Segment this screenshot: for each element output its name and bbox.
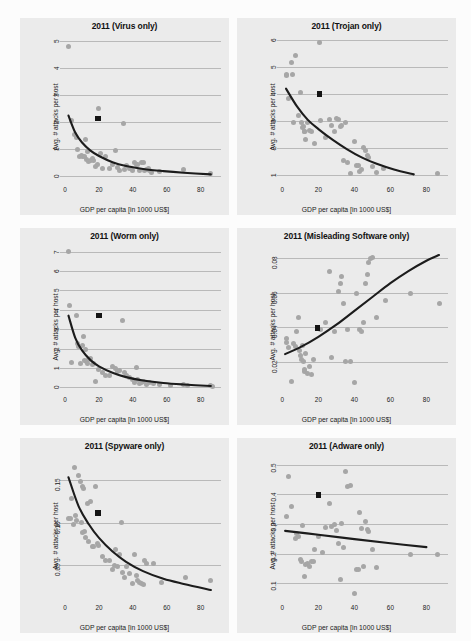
scatter-point [124,564,129,569]
scatter-point [338,281,343,286]
scatter-point [76,473,81,478]
scatter-point [381,166,386,171]
x-tick-label: 40 [129,396,136,403]
gridline [277,554,448,555]
scatter-point [327,269,332,274]
scatter-point [363,519,368,524]
scatter-point [74,313,79,318]
y-tick-label: 2 [53,344,57,351]
scatter-point [307,364,312,369]
gridline [277,67,448,68]
x-tick-label: 0 [281,604,285,611]
panel-title: 2011 (Adware only) [237,441,456,451]
scatter-point [327,501,332,506]
scatter-point [352,139,357,144]
scatter-point [374,565,379,570]
x-tick-label: 60 [387,396,394,403]
scatter-point [85,361,90,366]
y-tick-label: 0.05 [45,560,57,567]
scatter-point [72,465,77,470]
scatter-point [95,162,100,167]
scatter-point [309,129,314,134]
scatter-point [345,327,350,332]
scatter-point [312,141,317,146]
scatter-point [336,541,341,546]
y-tick-label: 0.02 [262,357,274,364]
gridline [60,176,221,177]
scatter-point [121,121,126,126]
gridline [60,565,221,566]
scatter-point [359,526,364,531]
x-tick-label: 0 [63,186,67,193]
gridline [60,310,221,311]
scatter-point [117,552,122,557]
panel-2011-worm-only: 2011 (Worm only)Avg. # attacks per hostG… [20,228,229,425]
scatter-point [286,474,291,479]
x-tick-label: 60 [387,604,394,611]
scatter-point [296,315,301,320]
plot-area: 0.050.100.15020406080 [60,456,221,601]
scatter-point [120,318,125,323]
scatter-point [323,135,328,140]
scatter-point [301,359,306,364]
scatter-point [370,547,375,552]
scatter-point [339,521,344,526]
x-tick-label: 60 [163,186,170,193]
scatter-point [435,552,440,557]
y-tick-label: 3 [53,90,57,97]
scatter-point [332,129,337,134]
highlight-square-marker [315,325,321,331]
scatter-point [107,373,112,378]
gridline [277,327,448,328]
gridline [277,258,448,259]
y-tick-label: 0.1 [265,578,274,585]
x-axis-label: GDP per capita [in 1000 US$] [20,206,229,213]
scatter-point [323,525,328,530]
scatter-point [86,539,91,544]
fit-curve [60,246,221,393]
x-tick-label: 0 [281,186,285,193]
y-tick-label: 0.10 [45,518,57,525]
scatter-point [300,523,305,528]
scatter-point [334,528,339,533]
scatter-point [69,496,74,501]
scatter-point [127,571,132,576]
gridline [277,293,448,294]
scatter-point [149,170,154,175]
panel-2011-trojan-only: 2011 (Trojan only)Avg. # attacks per hos… [237,18,456,215]
scatter-point [338,577,343,582]
scatter-point [93,484,98,489]
scatter-point [341,301,346,306]
scatter-point [302,574,307,579]
panel-2011-spyware-only: 2011 (Spyware only)Avg. # attacks per ho… [20,438,229,633]
scatter-point [366,155,371,160]
scatter-point [286,345,291,350]
x-tick-label: 60 [387,186,394,193]
scatter-point [119,520,124,525]
gridline [60,387,221,388]
gridline [277,94,448,95]
scatter-point [366,529,371,534]
scatter-point [341,545,346,550]
scatter-point [66,249,71,254]
scatter-point [316,534,321,539]
x-axis-label: GDP per capita [in 1000 US$] [20,624,229,631]
x-tick-label: 20 [95,186,102,193]
panel-2011-virus-only: 2011 (Virus only)Avg. # attacks per host… [20,18,229,215]
scatter-point [115,564,120,569]
scatter-point [374,170,379,175]
x-tick-label: 80 [423,186,430,193]
scatter-point [291,120,296,125]
x-tick-label: 80 [197,396,204,403]
gridline [60,122,221,123]
scatter-point [100,166,105,171]
scatter-point [359,329,364,334]
x-axis-label: GDP per capita [in 1000 US$] [237,624,456,631]
scatter-point [66,44,71,49]
y-tick-label: 6 [53,266,57,273]
y-tick-label: 0.06 [262,288,274,295]
scatter-point [332,329,337,334]
scatter-point [329,123,334,128]
scatter-point [294,329,299,334]
scatter-point [311,357,316,362]
